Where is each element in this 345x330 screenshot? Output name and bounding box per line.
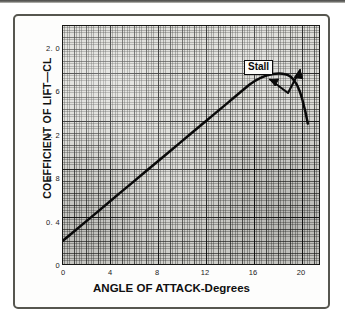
x-tick-label-12: 12 [195, 268, 215, 277]
y-tick-label-1-2: 1. 2 [26, 131, 60, 140]
scan-artifact-line [0, 0, 345, 3]
y-tick-label-0-8: 0. 8 [26, 174, 60, 183]
x-axis-title: ANGLE OF ATTACK-Degrees [15, 282, 328, 294]
y-tick-label-1-6: 1. 6 [26, 87, 60, 96]
lift-curve-svg [62, 25, 320, 265]
x-tick-label-16: 16 [243, 268, 263, 277]
lift-curve-path [62, 73, 308, 241]
x-tick-label-20: 20 [291, 268, 311, 277]
figure-frame: COEFFICIENT OF LIFT—CL 2. 0 1. 6 1. 2 0.… [13, 14, 330, 309]
x-tick-label-0: 0 [53, 268, 73, 277]
plot-area [62, 25, 320, 265]
y-tick-label-2-0: 2. 0 [26, 44, 60, 53]
y-tick-label-0-4: 0. 4 [26, 218, 60, 227]
x-tick-label-8: 8 [147, 268, 167, 277]
y-axis-title: COEFFICIENT OF LIFT—CL [41, 33, 53, 223]
stall-arrowhead-up-icon [294, 70, 303, 79]
stall-annotation-label: Stall [244, 60, 273, 75]
x-tick-label-4: 4 [100, 268, 120, 277]
figure-inner: COEFFICIENT OF LIFT—CL 2. 0 1. 6 1. 2 0.… [15, 16, 328, 307]
